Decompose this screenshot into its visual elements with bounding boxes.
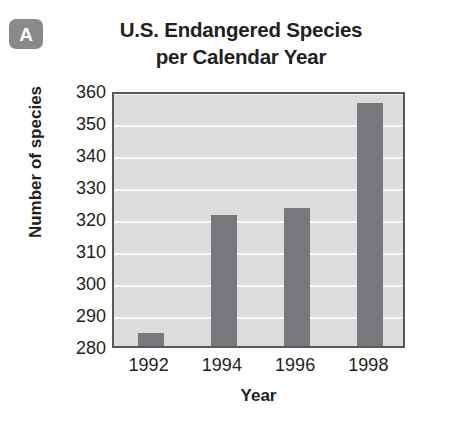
x-tick-label: 1998 (333, 356, 403, 374)
x-tick-label: 1994 (187, 356, 257, 374)
y-tick-label: 290 (54, 307, 106, 325)
x-axis-ticks: 1992199419961998 (112, 356, 405, 382)
bar-chart: 360350340330320310300290280 199219941996… (0, 0, 466, 433)
y-tick-label: 350 (54, 115, 106, 133)
x-axis-title: Year (112, 386, 405, 406)
y-tick-label: 360 (54, 83, 106, 101)
x-tick-label: 1992 (114, 356, 184, 374)
y-axis-title: Number of species (26, 62, 46, 262)
y-tick-label: 310 (54, 243, 106, 261)
y-tick-label: 280 (54, 339, 106, 357)
gridline (114, 93, 403, 95)
x-tick-label: 1996 (260, 356, 330, 374)
y-tick-label: 300 (54, 275, 106, 293)
bar (138, 333, 164, 346)
bar (284, 208, 310, 346)
plot-area (112, 92, 405, 348)
y-axis-ticks: 360350340330320310300290280 (50, 92, 106, 348)
bar (211, 215, 237, 346)
y-tick-label: 320 (54, 211, 106, 229)
y-tick-label: 340 (54, 147, 106, 165)
bar (357, 103, 383, 346)
y-tick-label: 330 (54, 179, 106, 197)
